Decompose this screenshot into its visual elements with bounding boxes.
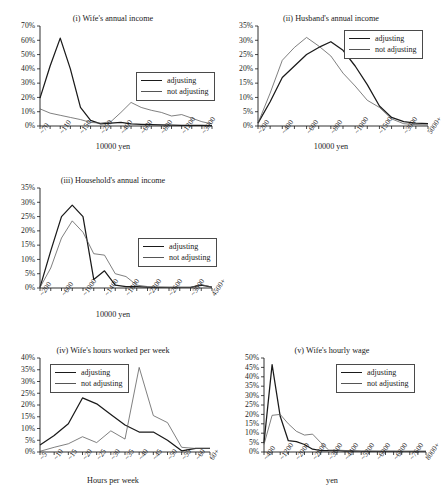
legend-label: not adjusting	[167, 87, 209, 97]
y-axis-tick-label: 50%	[245, 353, 260, 362]
legend-line-swatch	[55, 383, 76, 384]
plot-area: 0%5%10%15%20%25%30%35%~200~400~600~800~1…	[258, 26, 428, 126]
chart-legend: adjustingnot adjusting	[138, 238, 217, 267]
legend-label: not adjusting	[169, 253, 211, 263]
y-axis-tick-label: 10%	[239, 93, 254, 102]
y-axis-tick-label: 70%	[21, 21, 36, 30]
chart-title: (iii) Household's annual income	[6, 176, 220, 186]
legend-label: not adjusting	[375, 45, 417, 55]
x-axis-caption: Hours per week	[6, 476, 220, 485]
plot-area: 0%10%20%30%40%50%60%70%~70~110~150~250~4…	[40, 26, 212, 126]
y-axis-tick-label: 30%	[21, 78, 36, 87]
chart-legend: adjustingnot adjusting	[336, 364, 415, 393]
legend-line-swatch	[143, 257, 164, 258]
y-axis-tick-label: 30%	[21, 377, 36, 386]
y-axis-tick-label: 35%	[239, 21, 254, 30]
x-axis-caption: 10000 yen	[6, 142, 220, 151]
chart-legend: adjustingnot adjusting	[136, 72, 215, 101]
y-axis-tick-label: 20%	[21, 400, 36, 409]
legend-label: adjusting	[375, 34, 404, 44]
chart-legend: adjustingnot adjusting	[344, 30, 423, 59]
legend-item-not-adjusting: not adjusting	[349, 44, 417, 55]
y-axis-tick-label: 60%	[21, 36, 36, 45]
y-axis-tick-label: 25%	[21, 389, 36, 398]
chart-panel-wife-annual-income: (i) Wife's annual income 0%10%20%30%40%5…	[6, 14, 220, 160]
y-axis-tick-label: 40%	[245, 372, 260, 381]
y-axis-tick-label: 15%	[245, 419, 260, 428]
legend-line-swatch	[349, 49, 370, 50]
chart-panel-wife-hourly-wage: (v) Wife's hourly wage 0%5%10%15%20%25%3…	[228, 346, 436, 496]
y-axis-tick-label: 30%	[21, 198, 36, 207]
x-axis-caption: 10000 yen	[226, 142, 436, 151]
y-axis-tick-label: 5%	[243, 107, 254, 116]
y-axis-tick-label: 20%	[239, 64, 254, 73]
y-axis-tick-label: 35%	[21, 183, 36, 192]
y-axis-tick-label: 25%	[239, 50, 254, 59]
chart-title: (ii) Husband's annual income	[226, 14, 436, 24]
y-axis-tick-label: 0%	[243, 121, 254, 130]
y-axis-tick-label: 10%	[245, 428, 260, 437]
chart-title: (iv) Wife's hours worked per week	[6, 346, 220, 356]
y-axis-tick-label: 40%	[21, 353, 36, 362]
y-axis-tick-label: 0%	[25, 121, 36, 130]
legend-line-swatch	[55, 372, 76, 373]
y-axis-tick-label: 35%	[21, 365, 36, 374]
y-axis-tick-label: 50%	[21, 50, 36, 59]
legend-label: not adjusting	[367, 379, 409, 389]
legend-item-not-adjusting: not adjusting	[341, 378, 409, 389]
legend-item-adjusting: adjusting	[55, 367, 123, 378]
chart-title: (i) Wife's annual income	[6, 14, 220, 24]
plot-area: 0%5%10%15%20%25%30%35%40%45%50%~400~1200…	[264, 358, 426, 452]
chart-panel-household-annual-income: (iii) Household's annual income 0%5%10%1…	[6, 176, 220, 326]
x-axis-caption: 10000 yen	[6, 310, 220, 319]
y-axis-tick-label: 5%	[249, 438, 260, 447]
legend-label: adjusting	[167, 76, 196, 86]
y-axis-tick-label: 0%	[25, 447, 36, 456]
y-axis-tick-label: 5%	[25, 269, 36, 278]
legend-line-swatch	[141, 91, 162, 92]
y-axis-tick-label: 15%	[21, 240, 36, 249]
y-axis-tick-label: 25%	[245, 400, 260, 409]
y-axis-tick-label: 0%	[249, 447, 260, 456]
y-axis-tick-label: 25%	[21, 212, 36, 221]
y-axis-tick-label: 10%	[21, 255, 36, 264]
legend-label: adjusting	[169, 242, 198, 252]
y-axis-tick-label: 30%	[245, 391, 260, 400]
y-axis-tick-label: 5%	[25, 436, 36, 445]
plot-area: 0%5%10%15%20%25%30%35%~200~600~1000~1400…	[40, 188, 212, 288]
chart-panel-husband-annual-income: (ii) Husband's annual income 0%5%10%15%2…	[226, 14, 436, 160]
y-axis-tick-label: 35%	[245, 381, 260, 390]
legend-label: not adjusting	[81, 379, 123, 389]
legend-item-adjusting: adjusting	[341, 367, 409, 378]
legend-item-not-adjusting: not adjusting	[141, 86, 209, 97]
y-axis-tick-label: 45%	[245, 363, 260, 372]
legend-item-adjusting: adjusting	[141, 75, 209, 86]
y-axis-tick-label: 15%	[239, 78, 254, 87]
legend-line-swatch	[143, 246, 164, 247]
legend-label: adjusting	[81, 368, 110, 378]
legend-line-swatch	[141, 80, 162, 81]
x-axis-caption: yen	[228, 476, 436, 485]
y-axis-tick-label: 0%	[25, 283, 36, 292]
y-axis-tick-label: 30%	[239, 36, 254, 45]
legend-item-not-adjusting: not adjusting	[143, 252, 211, 263]
chart-legend: adjustingnot adjusting	[50, 364, 129, 393]
y-axis-tick-label: 20%	[245, 410, 260, 419]
y-axis-tick-label: 20%	[21, 226, 36, 235]
legend-line-swatch	[341, 372, 362, 373]
legend-item-adjusting: adjusting	[143, 241, 211, 252]
series-line-adjusting	[40, 398, 210, 451]
y-axis-tick-label: 15%	[21, 412, 36, 421]
chart-panel-wife-hours-worked: (iv) Wife's hours worked per week 0%5%10…	[6, 346, 220, 496]
plot-area: 0%5%10%15%20%25%30%35%40%~5~10~15~20~25~…	[40, 358, 210, 452]
y-axis-tick-label: 10%	[21, 107, 36, 116]
y-axis-tick-label: 10%	[21, 424, 36, 433]
legend-label: adjusting	[367, 368, 396, 378]
y-axis-tick-label: 20%	[21, 93, 36, 102]
chart-title: (v) Wife's hourly wage	[228, 346, 436, 356]
y-axis-tick-label: 40%	[21, 64, 36, 73]
legend-item-not-adjusting: not adjusting	[55, 378, 123, 389]
legend-item-adjusting: adjusting	[349, 33, 417, 44]
legend-line-swatch	[341, 383, 362, 384]
